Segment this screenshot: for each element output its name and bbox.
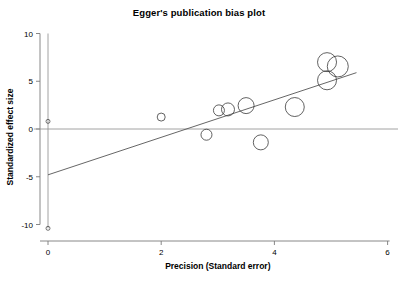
- x-axis: 0246 Precision (Standard error): [40, 241, 390, 271]
- x-tick-label: 2: [159, 248, 164, 257]
- data-point-bubble: [157, 113, 165, 121]
- chart-canvas: -10-50510 Standardized effect size 0246 …: [0, 0, 398, 282]
- y-tick-label: 10: [24, 30, 33, 39]
- y-axis-tick-labels: -10-50510: [21, 30, 33, 230]
- data-points: [46, 53, 348, 231]
- data-point-bubble: [201, 129, 212, 140]
- data-point-bubble: [253, 135, 268, 150]
- data-point-bubble: [213, 105, 224, 116]
- y-tick-label: -10: [21, 221, 33, 230]
- x-tick-label: 4: [272, 248, 277, 257]
- x-tick-label: 0: [46, 248, 51, 257]
- x-axis-title: Precision (Standard error): [165, 261, 271, 271]
- y-tick-label: -5: [26, 173, 34, 182]
- y-axis-title: Standardized effect size: [5, 88, 15, 185]
- y-tick-label: 5: [29, 77, 34, 86]
- data-point-bubble: [238, 98, 254, 114]
- data-point-bubble: [285, 98, 304, 117]
- data-point-bubble: [318, 53, 337, 72]
- x-axis-ticks: [48, 241, 388, 245]
- egger-publication-bias-plot: Egger's publication bias plot -10-50510 …: [0, 0, 398, 282]
- data-point-bubble: [327, 56, 348, 77]
- x-tick-label: 6: [385, 248, 390, 257]
- x-axis-tick-labels: 0246: [46, 248, 391, 257]
- y-axis: -10-50510 Standardized effect size: [5, 30, 40, 230]
- egger-regression-line: [48, 73, 356, 175]
- data-point-bubble: [221, 103, 234, 116]
- y-tick-label: 0: [29, 125, 34, 134]
